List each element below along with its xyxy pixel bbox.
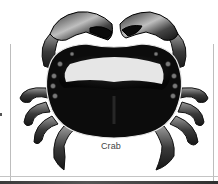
right-claw bbox=[120, 12, 178, 40]
frame-right-line bbox=[213, 44, 214, 182]
figure-caption: Crab bbox=[101, 141, 121, 151]
frame-left-line bbox=[10, 44, 11, 182]
bottom-dark-strip bbox=[0, 181, 218, 184]
crab-illustration bbox=[16, 6, 212, 178]
margin-mark bbox=[0, 113, 2, 116]
left-claw bbox=[50, 12, 113, 41]
